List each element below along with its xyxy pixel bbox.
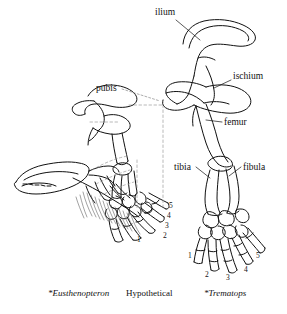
label-tibia: tibia [174, 163, 191, 173]
caption-hypothetical: Hypothetical [126, 289, 173, 298]
leader-tibia [196, 167, 210, 178]
hypothetical-skeleton [72, 85, 169, 242]
digit-number-trematops-3: 3 [226, 274, 230, 282]
caption-eusthenopteron: *Eusthenopteron [48, 289, 109, 298]
label-ischium: ischium [233, 72, 263, 82]
digit-number-trematops-5: 5 [256, 252, 260, 260]
label-pubis: pubis [96, 84, 117, 94]
digit-number-hypothetical-3: 3 [165, 222, 169, 230]
eusthenopteron-skeleton [14, 162, 139, 217]
caption-trematops: *Trematops [204, 289, 246, 298]
digit-number-hypothetical-4: 4 [167, 212, 171, 220]
leader-femur [206, 120, 222, 122]
digit-number-hypothetical-5: 5 [169, 202, 173, 210]
label-ilium: ilium [155, 8, 175, 18]
digit-number-hypothetical-1: 1 [137, 236, 141, 244]
trematops-skeleton [162, 20, 265, 273]
label-fibula: fibula [243, 163, 265, 173]
label-femur: femur [224, 118, 247, 128]
leader-ilium [176, 20, 200, 40]
digit-number-trematops-4: 4 [244, 266, 248, 274]
leader-pubis [122, 89, 160, 101]
leader-ischium [214, 80, 231, 88]
digit-number-hypothetical-2: 2 [163, 232, 167, 240]
digit-number-trematops-1: 1 [188, 252, 192, 260]
anatomical-figure: ilium ischium pubis femur tibia fibula 5… [0, 0, 287, 314]
digit-number-trematops-2: 2 [205, 271, 209, 279]
